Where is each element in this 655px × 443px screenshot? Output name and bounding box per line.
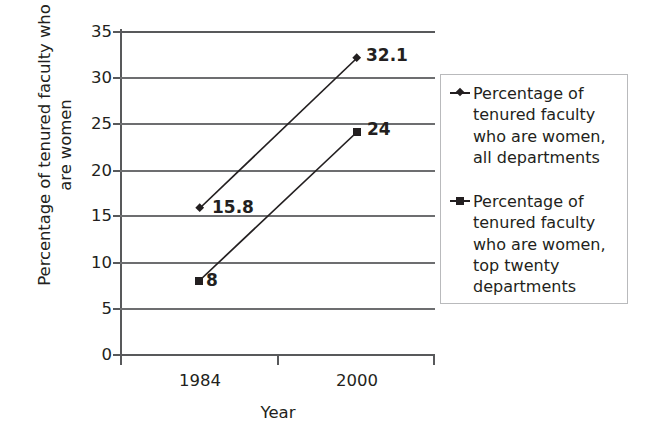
legend-entry-all-departments: Percentage of tenured faculty who are wo… [449, 83, 621, 168]
legend-key-square-icon [449, 191, 471, 212]
y-tick-label-10: 10 [72, 255, 112, 272]
plot-area [120, 31, 435, 354]
legend-label-all-departments: Percentage of tenured faculty who are wo… [473, 83, 606, 168]
y-tick-label-5: 5 [72, 301, 112, 318]
y-axis-title-line-1: Percentage of tenured faculty who [34, 4, 55, 285]
y-tick-label-20: 20 [72, 163, 112, 180]
legend-label-line-4: all departments [473, 148, 600, 167]
gridline-15 [120, 215, 435, 217]
y-tick-label-35: 35 [72, 24, 112, 41]
legend-label-line-5: departments [473, 277, 576, 296]
legend-key-diamond-icon [449, 83, 471, 104]
legend-label-line-3: who are women, [473, 127, 606, 146]
y-tick-label-30: 30 [72, 70, 112, 87]
y-tick-label-15: 15 [72, 208, 112, 225]
gridline-20 [120, 170, 435, 172]
x-axis-title: Year [238, 403, 318, 422]
legend-label-line-3: who are women, [473, 235, 606, 254]
legend-label-line-2: tenured faculty [473, 105, 595, 124]
legend-label-line-1: Percentage of [473, 84, 584, 103]
data-label-series-1-1984: 8 [206, 272, 218, 289]
data-label-series-0-1984: 15.8 [212, 199, 254, 216]
y-tick-label-25: 25 [72, 116, 112, 133]
data-label-series-1-2000: 24 [367, 121, 391, 138]
gridline-5 [120, 308, 435, 310]
x-tick-mark-left [120, 355, 122, 365]
gridline-30 [120, 77, 435, 79]
gridline-10 [120, 262, 435, 264]
legend-label-line-2: tenured faculty [473, 213, 595, 232]
chart-legend: Percentage of tenured faculty who are wo… [440, 74, 628, 304]
gridline-35 [120, 31, 435, 33]
x-tick-label-1984: 1984 [160, 373, 240, 390]
data-label-series-0-2000: 32.1 [366, 47, 408, 64]
x-tick-mark-right [433, 355, 435, 365]
y-tick-label-0: 0 [72, 347, 112, 364]
x-tick-label-2000: 2000 [317, 373, 397, 390]
legend-label-line-1: Percentage of [473, 192, 584, 211]
legend-entry-top-twenty-departments: Percentage of tenured faculty who are wo… [449, 191, 621, 297]
chart-figure: Percentage of tenured faculty who are wo… [0, 0, 655, 443]
legend-label-line-4: top twenty [473, 256, 559, 275]
x-tick-mark-middle [277, 355, 279, 365]
legend-label-top-twenty-departments: Percentage of tenured faculty who are wo… [473, 191, 606, 297]
